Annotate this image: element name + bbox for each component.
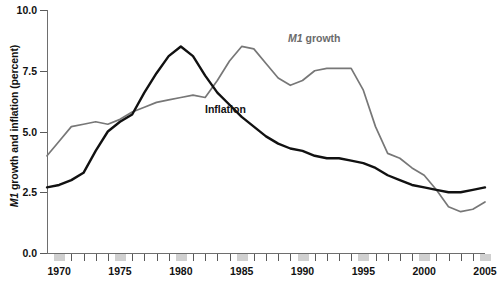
series-label-m1-growth: M1 growth	[288, 32, 341, 44]
series-label-inflation: Inflation	[205, 103, 246, 115]
series-line-inflation	[47, 46, 485, 192]
